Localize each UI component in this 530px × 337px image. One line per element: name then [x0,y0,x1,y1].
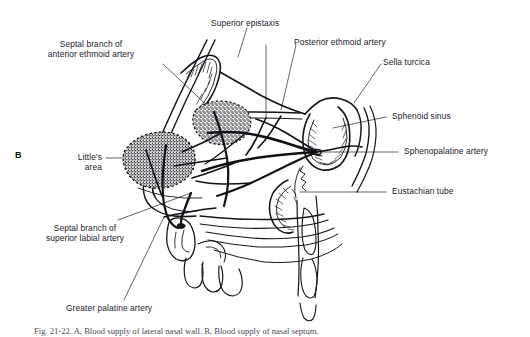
septal-anastomosis-3 [196,181,251,184]
littles-area-patch [123,132,195,188]
label-line-2: anterior ethmoid artery [48,49,135,59]
soft-palate-upper [206,228,334,239]
sphenopalatine-inferior-branch [217,152,317,196]
figure-caption: Fig. 21-22. A, Blood supply of lateral n… [34,326,504,336]
label-littles-area: Little's area [40,152,102,172]
sphenopalatine-superior-branch [256,119,317,152]
vertebral-body-c2 [301,258,317,298]
hard-palate-upper [200,214,324,220]
vertebral-body-c3 [300,303,316,321]
label-greater-palatine-artery: Greater palatine artery [66,303,152,313]
leader-posterior-ethmoid [281,45,296,110]
eustachian-tube-torus [269,180,293,233]
label-sphenopalatine-artery: Sphenopalatine artery [404,146,488,156]
eustachian-hatching [275,188,297,230]
sphenoid-sinus-cavity [303,107,350,170]
label-line-1: Septal branch of [60,39,123,49]
septum-lower-edge [138,188,202,198]
sphenopalatine-origin [317,146,362,152]
panel-marker-b: B [15,150,22,160]
adenoid-ridge [300,166,306,191]
nasopharynx-wall-ridge [295,168,300,198]
alveolar-ridge-inner [206,247,221,258]
leader-superior-epistaxis [238,28,247,57]
label-septal-branch-anterior-ethmoid-artery: Septal branch of anterior ethmoid artery [20,39,162,59]
label-sella-turcica: Sella turcica [383,57,430,67]
vertebral-body-c1 [302,208,316,255]
label-superior-epistaxis: Superior epistaxis [211,18,279,28]
upper-incisor-2 [202,262,223,292]
hard-palate-lower [200,220,328,228]
sella-turcica-floor [305,98,357,114]
clivus-anterior [355,110,361,156]
label-line-2: superior labial artery [46,233,124,243]
sphenoid-sinus-inner [308,118,347,165]
upper-incisor-1 [184,258,203,288]
alveolar-ridge [198,241,226,262]
leader-sella-turcica [354,64,381,103]
label-line-1: Little's [78,152,102,162]
label-line-2: area [85,162,102,172]
incisive-canal [182,230,189,252]
columella-base-inner [163,205,197,212]
pharyngeal-wall-anterior [297,200,299,296]
label-posterior-ethmoid-artery: Posterior ethmoid artery [294,37,386,47]
label-septal-branch-superior-labial-artery: Septal branch of superior labial artery [18,223,152,243]
label-sphenoid-sinus: Sphenoid sinus [392,111,451,121]
label-line-1: Septal branch of [54,223,117,233]
incisive-canal-2 [175,232,176,248]
turbinate-hatching [187,62,212,104]
septal-anastomosis-2 [192,161,239,178]
label-eustachian-tube: Eustachian tube [392,186,454,196]
